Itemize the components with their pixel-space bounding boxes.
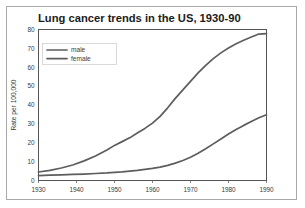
y-tick-label: 50 [27,82,35,89]
y-tick-label: 30 [27,120,35,127]
y-tick-label: 70 [27,45,35,52]
x-tick-label: 1990 [259,186,274,193]
chart-legend: male female [43,44,117,65]
x-tick-label: 1930 [31,186,46,193]
legend-label-male: male [71,46,86,53]
y-tick-label: 80 [27,26,35,33]
x-tick-label: 1960 [145,186,160,193]
line-chart: Lung cancer trends in the US, 1930-90 Ra… [0,0,305,208]
x-tick-label: 1970 [183,186,198,193]
y-tick-label: 60 [27,64,35,71]
y-tick-label: 40 [27,101,35,108]
y-tick-label: 0 [31,177,35,184]
y-tick-label: 10 [27,158,35,165]
x-tick-label: 1940 [69,186,84,193]
legend-label-female: female [71,55,91,62]
x-tick-label: 1980 [221,186,236,193]
chart-title: Lung cancer trends in the US, 1930-90 [38,12,241,24]
y-axis-tick-labels: 01020304050607080 [27,26,35,184]
x-tick-label: 1950 [107,186,122,193]
x-axis-tick-labels: 1930194019501960197019801990 [31,181,274,193]
y-axis-label: Rate per 100,000 [10,79,18,130]
y-tick-label: 20 [27,139,35,146]
